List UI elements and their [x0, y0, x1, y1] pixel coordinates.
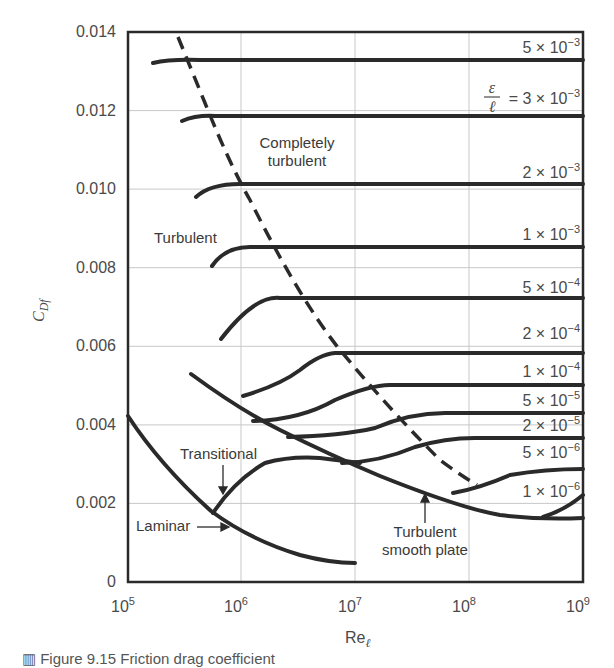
svg-text:0.010: 0.010	[76, 180, 116, 197]
svg-text:= 3 × 10−3: = 3 × 10−3	[509, 87, 580, 107]
svg-text:Completely: Completely	[259, 134, 335, 151]
svg-text:0.006: 0.006	[76, 337, 116, 354]
svg-text:0: 0	[107, 573, 116, 590]
svg-text:108: 108	[452, 595, 476, 615]
svg-text:109: 109	[566, 595, 590, 615]
svg-text:smooth plate: smooth plate	[382, 541, 468, 558]
svg-text:5 × 10−5: 5 × 10−5	[523, 389, 580, 409]
svg-text:2 × 10−4: 2 × 10−4	[523, 322, 580, 342]
curve-completely-turbulent-boundary	[178, 37, 477, 485]
svg-text:2 × 10−3: 2 × 10−3	[523, 161, 580, 181]
svg-text:0.008: 0.008	[76, 259, 116, 276]
svg-text:0.004: 0.004	[76, 416, 116, 433]
svg-text:CDf: CDf	[30, 298, 51, 322]
curve-5e-3	[153, 60, 583, 63]
svg-text:0.014: 0.014	[76, 23, 116, 40]
svg-text:5 × 10−6: 5 × 10−6	[523, 441, 580, 461]
svg-text:105: 105	[111, 595, 135, 615]
curve-3e-3	[182, 116, 583, 121]
svg-text:Transitional: Transitional	[180, 445, 257, 462]
svg-text:1 × 10−6: 1 × 10−6	[523, 480, 580, 500]
svg-text:turbulent: turbulent	[268, 152, 327, 169]
y-axis-ticks: 0 0.002 0.004 0.006 0.008 0.010 0.012 0.…	[76, 23, 116, 590]
x-axis-ticks: 105 106 107 108 109	[111, 595, 590, 615]
curve-transitional	[213, 458, 360, 513]
svg-text:5 × 10−4: 5 × 10−4	[523, 276, 580, 296]
svg-text:1 × 10−4: 1 × 10−4	[523, 360, 580, 380]
svg-text:Turbulent: Turbulent	[394, 523, 458, 540]
annotation-arrows	[197, 465, 429, 531]
y-axis-title: CDf	[30, 298, 51, 322]
svg-text:107: 107	[338, 595, 362, 615]
svg-text:ε: ε	[489, 79, 496, 96]
svg-text:2 × 10−5: 2 × 10−5	[523, 414, 580, 434]
svg-text:0.012: 0.012	[76, 102, 116, 119]
svg-text:106: 106	[224, 595, 248, 615]
x-axis-title: Reℓ	[345, 629, 370, 650]
svg-text:Laminar: Laminar	[136, 517, 190, 534]
epsilon-over-ell-label: ε ℓ	[484, 79, 500, 115]
curve-2e-3	[196, 184, 583, 197]
figure-caption: ▥ Figure 9.15 Friction drag coefficient	[22, 650, 275, 668]
svg-text:ℓ: ℓ	[489, 98, 496, 115]
svg-text:0.002: 0.002	[76, 494, 116, 511]
svg-text:5 × 10−3: 5 × 10−3	[523, 36, 580, 56]
svg-text:1 × 10−3: 1 × 10−3	[523, 223, 580, 243]
svg-text:Turbulent: Turbulent	[154, 229, 218, 246]
curve-1e-3	[212, 247, 583, 266]
